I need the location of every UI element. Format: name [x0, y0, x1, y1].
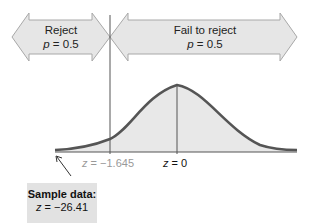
- reject-label: Reject p = 0.5: [30, 23, 92, 51]
- sample-pointer-line: [57, 157, 71, 176]
- fail-to-reject-title: Fail to reject: [150, 23, 260, 37]
- fail-to-reject-label: Fail to reject p = 0.5: [150, 23, 260, 51]
- critical-z-label: z = −1.645: [82, 157, 134, 169]
- sample-data-box: Sample data: z = −26.41: [27, 183, 97, 223]
- reject-p-value: p = 0.5: [30, 37, 92, 51]
- fail-to-reject-p-value: p = 0.5: [150, 37, 260, 51]
- sample-data-value: z = −26.41: [27, 201, 97, 214]
- sample-data-title: Sample data:: [27, 188, 97, 201]
- center-z-label: z = 0: [163, 157, 187, 169]
- reject-title: Reject: [30, 23, 92, 37]
- normal-curve-fill: [55, 85, 297, 152]
